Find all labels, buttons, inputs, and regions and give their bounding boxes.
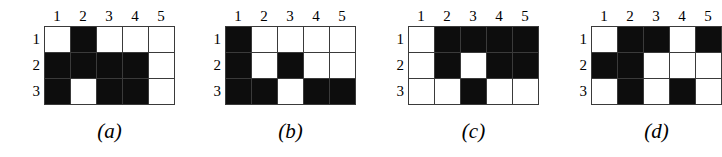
column-label: 5	[695, 8, 721, 26]
column-label: 5	[329, 8, 355, 26]
grid-row	[592, 79, 722, 105]
row-label: 3	[205, 78, 221, 104]
column-label: 2	[434, 8, 460, 26]
grid-cell-empty[interactable]	[487, 79, 513, 105]
row-label: 2	[571, 52, 587, 78]
grid-cell-filled[interactable]	[226, 79, 252, 105]
grid-cell-filled[interactable]	[696, 27, 722, 53]
grid-cell-empty[interactable]	[304, 53, 330, 79]
grid-area-b: 1 2 3 1 2 3 4 5	[205, 8, 356, 105]
row-labels-a: 1 2 3	[24, 8, 40, 104]
grid-cell-filled[interactable]	[592, 53, 618, 79]
grid-cell-filled[interactable]	[123, 79, 149, 105]
grid-cell-filled[interactable]	[618, 53, 644, 79]
grid-cell-filled[interactable]	[45, 53, 71, 79]
grid-cell-filled[interactable]	[618, 27, 644, 53]
grid-cell-empty[interactable]	[330, 53, 356, 79]
column-label: 5	[512, 8, 538, 26]
grid-cell-empty[interactable]	[435, 79, 461, 105]
grid-cell-empty[interactable]	[670, 27, 696, 53]
row-label: 1	[205, 26, 221, 52]
grid-cell-empty[interactable]	[461, 53, 487, 79]
grid-cell-filled[interactable]	[618, 79, 644, 105]
grid-cell-filled[interactable]	[226, 27, 252, 53]
grid-cell-filled[interactable]	[461, 79, 487, 105]
grid-cell-filled[interactable]	[670, 79, 696, 105]
grid-row	[45, 53, 175, 79]
grid-row	[409, 53, 539, 79]
grid-cell-empty[interactable]	[97, 27, 123, 53]
grid-cell-filled[interactable]	[71, 27, 97, 53]
grid-cell-filled[interactable]	[71, 53, 97, 79]
grid-area-d: 1 2 3 1 2 3 4 5	[571, 8, 722, 105]
grid-cell-empty[interactable]	[252, 27, 278, 53]
row-label: 2	[388, 52, 404, 78]
grid-cell-filled[interactable]	[461, 27, 487, 53]
grid-cell-empty[interactable]	[149, 27, 175, 53]
grid-cell-empty[interactable]	[409, 27, 435, 53]
column-label: 2	[617, 8, 643, 26]
grid-cell-filled[interactable]	[304, 79, 330, 105]
grid-cell-empty[interactable]	[252, 53, 278, 79]
grid-row	[226, 53, 356, 79]
grid-cell-filled[interactable]	[97, 53, 123, 79]
column-label: 2	[251, 8, 277, 26]
grid-cell-empty[interactable]	[149, 53, 175, 79]
grid-cell-filled[interactable]	[97, 79, 123, 105]
column-labels-d: 1 2 3 4 5	[591, 8, 722, 26]
grid-cell-empty[interactable]	[513, 79, 539, 105]
grid-cell-empty[interactable]	[409, 79, 435, 105]
grid-cell-empty[interactable]	[592, 27, 618, 53]
grid-cell-empty[interactable]	[696, 79, 722, 105]
grid-cell-empty[interactable]	[45, 27, 71, 53]
grid-cell-empty[interactable]	[71, 79, 97, 105]
grid-cell-filled[interactable]	[435, 27, 461, 53]
grid-cell-empty[interactable]	[670, 53, 696, 79]
grid-cell-filled[interactable]	[226, 53, 252, 79]
grid-cell-filled[interactable]	[513, 53, 539, 79]
grid-cell-filled[interactable]	[45, 79, 71, 105]
grid-row	[592, 53, 722, 79]
grid-cell-empty[interactable]	[644, 79, 670, 105]
grid-row	[45, 79, 175, 105]
grid-cell-empty[interactable]	[696, 53, 722, 79]
row-label: 2	[205, 52, 221, 78]
figure-block-d: 1 2 3 1 2 3 4 5 (d)	[571, 8, 722, 144]
grid-cell-filled[interactable]	[644, 27, 670, 53]
grid-cell-filled[interactable]	[487, 53, 513, 79]
row-label: 3	[571, 78, 587, 104]
column-label: 5	[148, 8, 174, 26]
grid-cell-empty[interactable]	[123, 27, 149, 53]
row-labels-b: 1 2 3	[205, 8, 221, 104]
cell-grid-b	[225, 26, 356, 105]
grid-cell-empty[interactable]	[304, 27, 330, 53]
grid-cell-filled[interactable]	[330, 79, 356, 105]
row-label: 2	[24, 52, 40, 78]
grid-row	[409, 79, 539, 105]
row-label: 1	[24, 26, 40, 52]
grid-cell-empty[interactable]	[592, 79, 618, 105]
column-label: 4	[303, 8, 329, 26]
grid-cell-empty[interactable]	[278, 27, 304, 53]
grid-cell-empty[interactable]	[278, 79, 304, 105]
column-labels-a: 1 2 3 4 5	[44, 8, 175, 26]
grid-with-columns-c: 1 2 3 4 5	[408, 8, 539, 105]
grid-cell-filled[interactable]	[123, 53, 149, 79]
grid-area-c: 1 2 3 1 2 3 4 5	[388, 8, 539, 105]
grid-cell-empty[interactable]	[409, 53, 435, 79]
row-label: 1	[571, 26, 587, 52]
grid-row	[226, 27, 356, 53]
grid-with-columns-a: 1 2 3 4 5	[44, 8, 175, 105]
grid-cell-filled[interactable]	[435, 53, 461, 79]
figure-caption-d: (d)	[624, 119, 669, 144]
grid-cell-filled[interactable]	[278, 53, 304, 79]
grid-area-a: 1 2 3 1 2 3 4 5	[24, 8, 175, 105]
grid-cell-filled[interactable]	[252, 79, 278, 105]
grid-row	[409, 27, 539, 53]
grid-cell-empty[interactable]	[330, 27, 356, 53]
grid-cell-filled[interactable]	[487, 27, 513, 53]
grid-cell-empty[interactable]	[644, 53, 670, 79]
grid-cell-filled[interactable]	[513, 27, 539, 53]
grid-cell-empty[interactable]	[149, 79, 175, 105]
cell-grid-c	[408, 26, 539, 105]
